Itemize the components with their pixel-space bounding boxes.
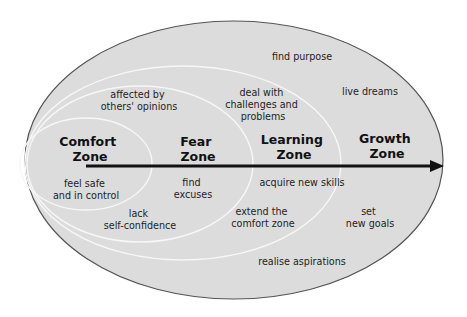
fear-zone-title: Fear Zone [180,134,215,164]
comfort-zone-diagram: Comfort Zone Fear Zone Learning Zone Gro… [0,0,467,317]
label-find-purpose: find purpose [272,51,332,62]
label-affected-by-opinions: affected by others' opinions [101,89,178,112]
label-live-dreams: live dreams [342,86,398,97]
label-extend-comfort-zone: extend the comfort zone [231,206,294,229]
label-acquire-new-skills: acquire new skills [259,177,344,188]
label-realise-aspirations: realise aspirations [258,256,346,267]
